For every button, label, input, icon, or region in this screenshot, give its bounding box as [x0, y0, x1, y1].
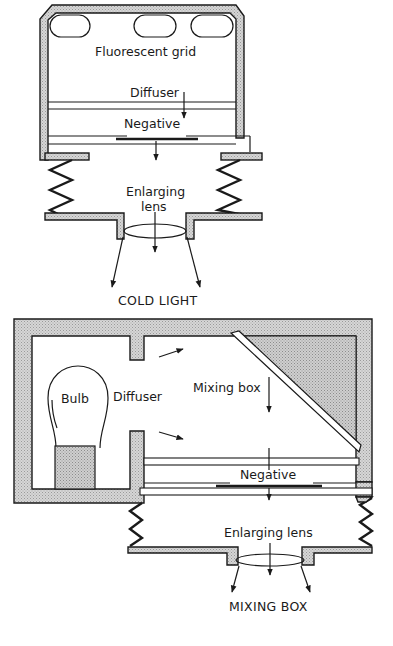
caption-cold-light: COLD LIGHT: [118, 293, 198, 308]
lens-board-mixing-right: [302, 547, 372, 565]
lens-board-mixing-left: [128, 547, 238, 565]
label-negative-top: Negative: [124, 116, 180, 131]
fluorescent-tubes: [50, 15, 233, 37]
light-cone-arrow-right-icon: [301, 566, 310, 592]
caption-mixing-box: MIXING BOX: [229, 599, 308, 614]
light-cone-arrow-left-icon: [232, 566, 239, 592]
label-diffuser-bottom: Diffuser: [113, 389, 163, 404]
bellows-top-plate-right-mixing: [356, 497, 372, 502]
light-bulb: [48, 366, 108, 489]
bellows-top-plate-right: [221, 153, 262, 160]
bulb-socket: [55, 446, 95, 489]
cold-light-diagram: Fluorescent grid Diffuser Negative Enlar…: [40, 5, 262, 308]
bellows-spring-right-mixing: [360, 498, 372, 546]
cold-light-diffuser: [48, 102, 236, 109]
light-cone-arrow-right-icon: [187, 237, 200, 287]
mixing-box-diagram: Bulb Diffuser Mixing box Negative Enlarg…: [14, 319, 372, 614]
label-mixing-box: Mixing box: [193, 380, 261, 395]
label-bulb: Bulb: [61, 391, 89, 406]
label-enlarging-top: Enlarging: [126, 184, 185, 199]
bellows-spring-left: [50, 160, 72, 215]
label-enlarging-lens-bottom: Enlarging lens: [224, 525, 313, 540]
label-diffuser-top: Diffuser: [130, 85, 180, 100]
enlarger-light-source-diagram: Fluorescent grid Diffuser Negative Enlar…: [0, 0, 393, 646]
label-negative-bottom: Negative: [240, 467, 296, 482]
lens-board-cold: [45, 213, 124, 239]
bellows-top-plate-left: [45, 153, 89, 160]
bellows-spring-right: [218, 160, 244, 215]
bellows-spring-left-mixing: [130, 503, 142, 546]
light-arrow-icon: [159, 432, 183, 439]
light-cone-arrow-left-icon: [112, 237, 123, 287]
lens-board-cold-right: [186, 213, 262, 239]
label-fluorescent-grid: Fluorescent grid: [95, 44, 196, 59]
cold-light-housing: [40, 5, 244, 160]
cold-light-negative-carrier: [48, 136, 250, 152]
light-arrow-icon: [159, 349, 183, 357]
label-lens-top: lens: [141, 199, 167, 214]
